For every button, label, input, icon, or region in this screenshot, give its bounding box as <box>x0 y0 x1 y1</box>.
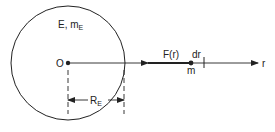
radius-label: RE <box>90 95 102 107</box>
earth-gravity-diagram: E, mE O r F(r) m dr RE <box>0 0 275 132</box>
force-label: F(r) <box>163 49 179 60</box>
axis-label-r: r <box>262 58 266 69</box>
dr-label: dr <box>192 49 202 60</box>
mass-label: m <box>187 65 195 76</box>
earth-label: E, mE <box>58 19 84 31</box>
origin-label: O <box>56 58 64 69</box>
